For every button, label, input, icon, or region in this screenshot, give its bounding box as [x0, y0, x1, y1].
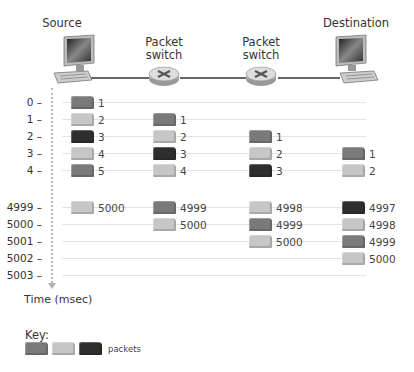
link-switch1-switch2 [180, 77, 246, 79]
source-packet-label: 1 [98, 97, 105, 109]
switch2-packet-label: 1 [276, 131, 283, 143]
switch2-label: Packet switch [231, 36, 291, 62]
destination-packet [342, 235, 365, 248]
gridline [62, 224, 366, 225]
gridline [62, 275, 366, 276]
destination-packet-label: 4999 [369, 236, 396, 248]
key-swatch-light [52, 342, 75, 355]
source-label: Source [32, 17, 92, 30]
switch1-packet [153, 147, 176, 160]
switch2-label-line2: switch [231, 49, 291, 62]
destination-label: Destination [314, 17, 398, 30]
destination-packet [342, 147, 365, 160]
source-packet-label: 5 [98, 165, 105, 177]
destination-packet-label: 4997 [369, 202, 396, 214]
key-packets-label: packets [108, 344, 141, 354]
switch1-router-icon [148, 64, 180, 88]
gridline [62, 136, 366, 137]
link-switch2-destination [278, 77, 340, 79]
source-packet [71, 113, 94, 126]
source-computer-icon [50, 33, 98, 87]
link-source-switch1 [90, 77, 150, 79]
switch1-packet [153, 113, 176, 126]
destination-packet-label: 1 [369, 148, 376, 160]
destination-packet [342, 201, 365, 214]
switch1-packet-label: 1 [180, 114, 187, 126]
gridline [62, 153, 366, 154]
switch2-packet-label: 2 [276, 148, 283, 160]
switch2-packet-label: 4998 [276, 202, 303, 214]
destination-packet [342, 252, 365, 265]
time-tick: 5001 – [0, 235, 42, 247]
source-packet [71, 96, 94, 109]
switch2-packet [249, 218, 272, 231]
switch2-packet [249, 201, 272, 214]
switch1-packet [153, 164, 176, 177]
source-packet-label: 5000 [98, 202, 125, 214]
source-packet [71, 201, 94, 214]
source-packet [71, 130, 94, 143]
time-axis-arrow-icon [48, 283, 56, 289]
time-tick: 5000 – [0, 218, 42, 230]
gridline [62, 170, 366, 171]
switch2-router-icon [245, 64, 277, 88]
destination-computer-icon [334, 33, 382, 87]
destination-packet-label: 5000 [369, 253, 396, 265]
key-title: Key: [25, 328, 49, 342]
destination-packet [342, 218, 365, 231]
switch1-packet-label: 3 [180, 148, 187, 160]
source-packet-label: 3 [98, 131, 105, 143]
switch1-label: Packet switch [134, 36, 194, 62]
switch1-packet-label: 5000 [180, 219, 207, 231]
switch2-packet-label: 5000 [276, 236, 303, 248]
switch2-packet [249, 235, 272, 248]
time-tick: 5002 – [0, 252, 42, 264]
destination-packet-label: 4998 [369, 219, 396, 231]
switch2-packet-label: 3 [276, 165, 283, 177]
time-tick: 4 – [0, 164, 42, 176]
switch2-packet-label: 4999 [276, 219, 303, 231]
switch2-packet [249, 147, 272, 160]
source-packet-label: 2 [98, 114, 105, 126]
time-axis-label: Time (msec) [24, 293, 92, 306]
destination-packet-label: 2 [369, 165, 376, 177]
source-packet [71, 164, 94, 177]
key-swatch-medium [25, 342, 48, 355]
switch1-packet [153, 218, 176, 231]
key-swatch-dark [79, 342, 102, 355]
time-tick: 4999 – [0, 201, 42, 213]
time-tick: 0 – [0, 96, 42, 108]
switch1-packet [153, 130, 176, 143]
switch1-packet-label: 4999 [180, 202, 207, 214]
time-tick: 3 – [0, 147, 42, 159]
switch1-label-line2: switch [134, 49, 194, 62]
switch1-packet [153, 201, 176, 214]
time-tick: 1 – [0, 113, 42, 125]
switch2-packet [249, 164, 272, 177]
source-packet-label: 4 [98, 148, 105, 160]
switch1-packet-label: 4 [180, 165, 187, 177]
gridline [62, 258, 366, 259]
key-legend: packets [25, 342, 141, 355]
destination-packet [342, 164, 365, 177]
time-tick: 2 – [0, 130, 42, 142]
switch2-packet [249, 130, 272, 143]
source-packet [71, 147, 94, 160]
gridline [62, 241, 366, 242]
switch1-packet-label: 2 [180, 131, 187, 143]
gridline [62, 119, 366, 120]
time-axis [51, 88, 53, 283]
time-tick: 5003 – [0, 269, 42, 281]
gridline [62, 102, 366, 103]
